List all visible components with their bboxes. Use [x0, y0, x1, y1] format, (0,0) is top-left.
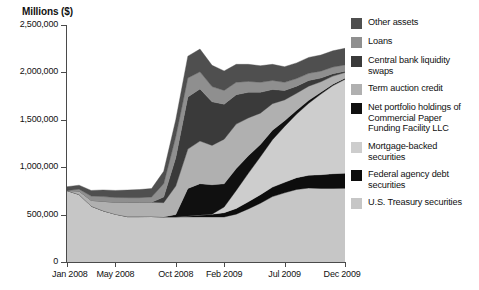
x-axis-tick [285, 263, 286, 267]
legend-item[interactable]: Federal agency debt securities [351, 169, 479, 190]
chart-page: Millions ($) 2,500,0002,000,0001,500,000… [0, 0, 479, 290]
y-axis-tick-label: 1,500,000 [0, 114, 58, 125]
legend-item-label: Loans [368, 36, 392, 47]
legend-swatch-icon [351, 103, 362, 114]
chart-legend: Other assetsLoansCentral bank liquidity … [351, 17, 479, 216]
legend-item[interactable]: Net portfolio holdings of Commercial Pap… [351, 102, 479, 134]
y-axis-tick-label: 0 [0, 256, 58, 267]
legend-item-label: Federal agency debt securities [368, 169, 476, 190]
y-axis-title: Millions ($) [22, 6, 73, 17]
legend-item-label: Mortgage-backed securities [368, 141, 476, 162]
x-axis-tick-label: May 2008 [96, 269, 134, 279]
legend-swatch-icon [351, 37, 362, 48]
x-axis-tick-label: Oct 2008 [158, 269, 193, 279]
x-axis-tick [224, 263, 225, 267]
x-axis-tick [67, 263, 68, 267]
legend-item[interactable]: Other assets [351, 17, 479, 29]
x-axis-tick [345, 263, 346, 267]
y-axis-tick-label: 500,000 [0, 209, 58, 220]
legend-item[interactable]: Loans [351, 36, 479, 48]
y-axis-tick-label-text: 2,000,000 [20, 66, 58, 76]
y-axis-tick-label-text: 1,500,000 [20, 114, 58, 124]
x-axis-tick [115, 263, 116, 267]
legend-item-label: Other assets [368, 17, 418, 28]
legend-swatch-icon [351, 170, 362, 181]
stacked-area-chart [67, 25, 345, 262]
x-axis-tick-label: Jan 2008 [52, 269, 87, 279]
legend-item[interactable]: Term auction credit [351, 83, 479, 95]
legend-swatch-icon [351, 142, 362, 153]
y-axis-tick-label-text: 1,000,000 [20, 161, 58, 171]
y-axis-tick-label-text: 0 [53, 256, 58, 266]
legend-swatch-icon [351, 84, 362, 95]
y-axis-tick-label: 2,500,000 [0, 19, 58, 30]
y-axis-tick-label: 2,000,000 [0, 66, 58, 77]
legend-item-label: Net portfolio holdings of Commercial Pap… [368, 102, 476, 134]
legend-item-label: Term auction credit [368, 83, 443, 94]
x-axis-line [66, 262, 346, 263]
y-axis-tick-label-text: 2,500,000 [20, 19, 58, 29]
legend-item[interactable]: Central bank liquidity swaps [351, 55, 479, 76]
legend-item[interactable]: Mortgage-backed securities [351, 141, 479, 162]
x-axis-tick-label: Dec 2009 [324, 269, 361, 279]
x-axis-tick-label: Jul 2009 [268, 269, 300, 279]
y-axis-tick-label: 1,000,000 [0, 161, 58, 172]
y-axis-tick-label-text: 500,000 [27, 209, 58, 219]
legend-item[interactable]: U.S. Treasury securities [351, 197, 479, 209]
x-axis-tick [176, 263, 177, 267]
legend-swatch-icon [351, 198, 362, 209]
legend-swatch-icon [351, 18, 362, 29]
legend-item-label: U.S. Treasury securities [368, 197, 462, 208]
plot-area [67, 25, 345, 262]
x-axis-tick-label: Feb 2009 [206, 269, 242, 279]
legend-item-label: Central bank liquidity swaps [368, 55, 476, 76]
legend-swatch-icon [351, 56, 362, 67]
